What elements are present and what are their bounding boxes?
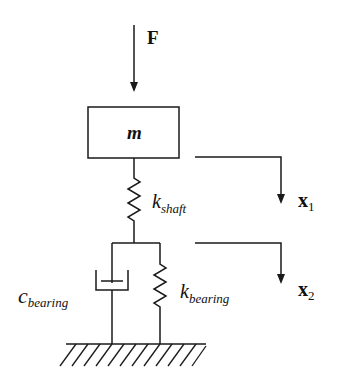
bearing-damper-label: cbearing xyxy=(18,283,69,310)
mass-spring-damper-diagram: F m kshaft cbearing kbearing xyxy=(0,0,343,384)
bearing-damper xyxy=(96,243,128,344)
force-label: F xyxy=(147,27,159,48)
force-arrow xyxy=(130,25,138,92)
bearing-spring xyxy=(154,243,166,344)
displacement-x2-arrow xyxy=(195,243,285,284)
shaft-spring xyxy=(128,158,140,243)
bearing-spring-label: kbearing xyxy=(180,280,230,306)
mass-label: m xyxy=(127,122,142,143)
displacement-x1-arrow xyxy=(195,157,285,204)
shaft-spring-label: kshaft xyxy=(152,190,187,216)
displacement-x1-label: x1 xyxy=(298,189,315,214)
ground xyxy=(60,344,206,366)
displacement-x2-label: x2 xyxy=(298,278,315,303)
